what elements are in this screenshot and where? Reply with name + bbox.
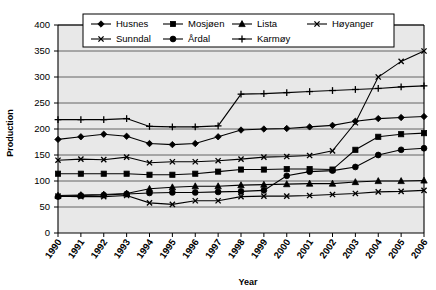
- legend-marker--rdal: [170, 36, 176, 42]
- y-tick-label-0: 0: [45, 227, 50, 238]
- chart-canvas: 050100150200250300350400 199019911992199…: [0, 0, 436, 290]
- data-point-mosj-en-2004: [376, 134, 381, 139]
- x-tick-label-2001: 2001: [294, 236, 316, 260]
- y-tick-label-150: 150: [34, 149, 50, 160]
- data-point--rdal-2001: [307, 169, 313, 175]
- data-point--rdal-2004: [375, 152, 381, 158]
- legend-label-mosj-en: Mosjøen: [188, 18, 224, 29]
- data-point-mosj-en-2000: [284, 166, 289, 171]
- data-point-mosj-en-1997: [216, 169, 221, 174]
- x-tick-label-1992: 1992: [88, 237, 109, 261]
- data-point-mosj-en-1992: [101, 171, 106, 176]
- y-axis-title: Production: [5, 109, 15, 157]
- x-tick-label-2006: 2006: [409, 237, 430, 261]
- x-tick-label-2002: 2002: [317, 237, 338, 261]
- chart-legend: HusnesMosjøenListaHøyangerSunndalÅrdalKa…: [83, 14, 394, 47]
- x-tick-label-1991: 1991: [65, 236, 87, 260]
- y-tick-label-200: 200: [34, 123, 50, 134]
- x-tick-label-2000: 2000: [271, 237, 292, 261]
- y-tick-label-50: 50: [39, 201, 50, 212]
- data-point--rdal-1992: [101, 192, 107, 198]
- data-point-mosj-en-1994: [147, 172, 152, 177]
- data-point--rdal-1999: [261, 187, 267, 193]
- x-axis-title: Year: [238, 277, 258, 287]
- legend-label-h-yanger: Høyanger: [332, 18, 374, 29]
- legend-label-husnes: Husnes: [116, 18, 148, 29]
- data-point-mosj-en-1996: [193, 171, 198, 176]
- legend-label-sunndal: Sunndal: [116, 33, 151, 44]
- x-tick-label-1993: 1993: [111, 237, 132, 261]
- production-by-year-line-chart: 050100150200250300350400 199019911992199…: [0, 0, 436, 290]
- y-tick-label-250: 250: [34, 97, 50, 108]
- data-point-mosj-en-1993: [124, 171, 129, 176]
- x-tick-label-1997: 1997: [203, 237, 224, 261]
- y-tick-label-350: 350: [34, 45, 50, 56]
- legend-marker-mosj-en: [170, 21, 175, 26]
- data-point-mosj-en-1995: [170, 172, 175, 177]
- legend-label-lista: Lista: [257, 18, 278, 29]
- data-point-mosj-en-2005: [399, 132, 404, 137]
- data-point--rdal-2002: [330, 168, 336, 174]
- x-tick-label-1994: 1994: [134, 236, 156, 260]
- data-point--rdal-2005: [398, 147, 404, 153]
- x-tick-label-1996: 1996: [180, 237, 201, 261]
- data-point--rdal-2000: [284, 173, 290, 179]
- y-tick-label-100: 100: [34, 175, 50, 186]
- x-tick-label-1995: 1995: [157, 236, 179, 260]
- x-axis-tick-labels: 1990199119921993199419951996199719981999…: [43, 233, 430, 260]
- data-point--rdal-1996: [192, 190, 198, 196]
- data-point--rdal-2003: [352, 164, 358, 170]
- data-point-mosj-en-1991: [78, 171, 83, 176]
- data-point-mosj-en-1998: [238, 167, 243, 172]
- data-point-mosj-en-2003: [353, 147, 358, 152]
- x-tick-label-1998: 1998: [226, 237, 247, 261]
- x-tick-label-1990: 1990: [43, 237, 64, 261]
- x-tick-label-2005: 2005: [386, 236, 408, 260]
- x-tick-label-2004: 2004: [363, 236, 385, 260]
- data-point-mosj-en-1999: [261, 167, 266, 172]
- y-axis-tick-labels: 050100150200250300350400: [34, 19, 58, 238]
- y-tick-label-300: 300: [34, 71, 50, 82]
- x-tick-label-2003: 2003: [340, 237, 361, 261]
- data-point--rdal-1997: [215, 189, 221, 195]
- x-tick-label-1999: 1999: [248, 237, 269, 261]
- data-point--rdal-1994: [147, 190, 153, 196]
- data-point--rdal-1995: [169, 190, 175, 196]
- legend-label--rdal: Årdal: [188, 33, 210, 44]
- data-point--rdal-1991: [78, 193, 84, 199]
- legend-label-karm-y: Karmøy: [257, 33, 291, 44]
- data-point--rdal-1993: [124, 191, 130, 197]
- y-tick-label-400: 400: [34, 19, 50, 30]
- data-point--rdal-1998: [238, 189, 244, 195]
